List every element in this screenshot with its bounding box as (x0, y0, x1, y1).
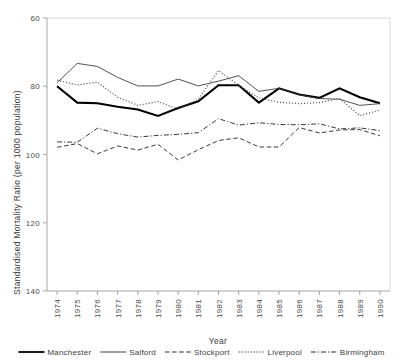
x-tick-label: 1979 (154, 299, 163, 318)
y-tick-label: 60 (31, 14, 41, 23)
x-tick-label: 1974 (53, 299, 62, 318)
y-tick-label: 120 (26, 219, 40, 228)
x-tick-label: 1987 (315, 299, 324, 318)
legend-label-stockport: Stockport (194, 348, 230, 357)
x-tick-label: 1982 (215, 299, 224, 318)
series-line-stockport (57, 128, 380, 160)
legend-label-manchester: Manchester (47, 348, 91, 357)
series-group (57, 63, 380, 160)
x-tick-label: 1981 (194, 299, 203, 318)
x-tick-label: 1977 (114, 299, 123, 318)
y-tick-label: 140 (26, 287, 40, 296)
series-line-birmingham (57, 119, 380, 143)
x-tick-label: 1975 (73, 299, 82, 318)
x-tick-label: 1990 (376, 299, 385, 318)
x-tick-label: 1978 (134, 299, 143, 318)
x-axis-title: Year (209, 336, 227, 346)
chart-legend: ManchesterSalfordStockportLiverpoolBirmi… (18, 348, 384, 357)
y-axis: 1401201008060 (26, 14, 47, 296)
x-axis: 1974197519761977197819791980198119821983… (47, 291, 390, 318)
y-tick-label: 80 (31, 82, 41, 91)
x-tick-label: 1983 (235, 299, 244, 318)
legend-label-birmingham: Birmingham (340, 348, 385, 357)
x-tick-label: 1989 (356, 299, 365, 318)
x-tick-label: 1984 (255, 299, 264, 318)
x-tick-label: 1988 (336, 299, 345, 318)
chart-figure: 1401201008060 19741975197619771978197919… (0, 0, 403, 363)
x-tick-label: 1980 (174, 299, 183, 318)
x-tick-label: 1985 (275, 299, 284, 318)
y-axis-title: Standardised Mortality Ratio (per 1000 p… (12, 90, 22, 295)
x-tick-label: 1986 (295, 299, 304, 318)
plot-frame (47, 18, 390, 291)
legend-label-salford: Salford (129, 348, 156, 357)
line-chart: 1401201008060 19741975197619771978197919… (0, 0, 403, 363)
legend-label-liverpool: Liverpool (268, 348, 302, 357)
y-tick-label: 100 (26, 151, 40, 160)
x-tick-label: 1976 (93, 299, 102, 318)
